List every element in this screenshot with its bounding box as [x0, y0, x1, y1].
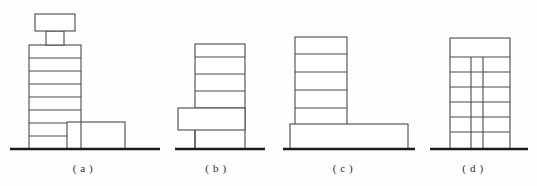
- panel-a-low-block: [67, 122, 125, 149]
- panel-b-tower-body: [195, 44, 245, 149]
- massing-diagram-svg: [0, 0, 537, 186]
- panel-a-roof-cap: [35, 14, 75, 31]
- panel-b: [175, 44, 265, 149]
- panel-a-roof-neck: [46, 31, 64, 45]
- panel-b-side-block: [178, 108, 245, 130]
- figure-container: ( a ) ( b ) ( c ) ( d ): [0, 0, 537, 186]
- panel-d: [430, 38, 528, 149]
- panel-c-podium: [290, 124, 408, 149]
- panel-c-tower-body: [295, 37, 347, 127]
- panel-a: [10, 14, 160, 149]
- panel-c: [283, 37, 415, 149]
